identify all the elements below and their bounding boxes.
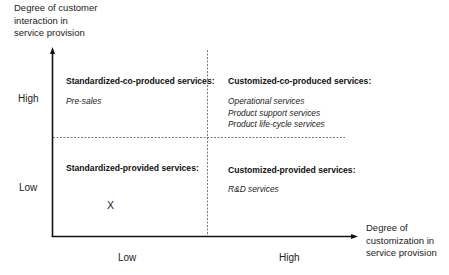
y-axis-title-line: service provision: [14, 27, 97, 40]
y-axis-title: Degree of customer interaction in servic…: [14, 2, 97, 40]
position-marker: X: [107, 199, 114, 211]
quadrant-bottom-right: Customized-provided services: R&D servic…: [228, 165, 356, 196]
x-tick-high: High: [279, 252, 300, 263]
y-tick-low: Low: [19, 182, 37, 193]
x-tick-low: Low: [118, 252, 136, 263]
quadrant-top-right: Customized-co-produced services: Operati…: [228, 76, 371, 131]
quadrant-item: R&D services: [228, 184, 356, 196]
y-axis-title-line: Degree of customer: [14, 2, 97, 15]
x-axis-arrowhead: [351, 234, 358, 239]
x-axis-title-line: Degree of: [366, 222, 437, 235]
quadrant-item: Pre-sales: [66, 96, 215, 108]
quadrant-item: Product life-cycle services: [228, 119, 371, 131]
x-axis-title-line: service provision: [366, 247, 437, 260]
y-tick-high: High: [18, 93, 39, 104]
x-axis-title: Degree of customization in service provi…: [366, 222, 437, 260]
quadrant-title: Customized-provided services:: [228, 165, 356, 175]
quadrant-top-left: Standardized-co-produced services: Pre-s…: [66, 76, 215, 108]
y-axis-title-line: interaction in: [14, 15, 97, 28]
quadrant-bottom-left: Standardized-provided services:: [66, 163, 199, 173]
quadrant-title: Standardized-provided services:: [66, 163, 199, 173]
x-axis-title-line: customization in: [366, 235, 437, 248]
quadrant-title: Standardized-co-produced services:: [66, 76, 215, 86]
quadrant-item: Product support services: [228, 108, 371, 120]
quadrant-item: Operational services: [228, 96, 371, 108]
quadrant-title: Customized-co-produced services:: [228, 76, 371, 86]
y-axis-arrowhead: [50, 47, 55, 54]
